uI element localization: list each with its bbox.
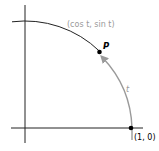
coord-label: (cos t, sin t): [67, 20, 115, 29]
arc-length-label: t: [126, 85, 130, 94]
point-p: [97, 50, 102, 55]
point-start: [129, 126, 134, 131]
point-p-label: P: [103, 41, 110, 51]
start-point-label: (1, 0): [134, 133, 156, 142]
unit-circle-diagram: (cos t, sin t) P t (1, 0): [0, 0, 159, 151]
